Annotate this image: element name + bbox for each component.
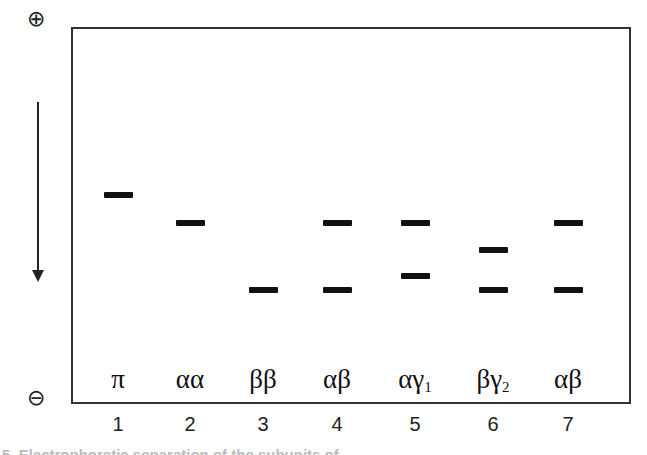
lane-label-subscript: 1 bbox=[424, 379, 432, 395]
lane-label-5: αγ1 bbox=[375, 364, 455, 402]
band-lane-3-1 bbox=[249, 287, 278, 293]
lane-number-3: 3 bbox=[248, 413, 278, 435]
lane-number-6: 6 bbox=[478, 413, 508, 435]
lane-label-7: αβ bbox=[528, 364, 608, 394]
band-lane-7-1 bbox=[554, 220, 583, 226]
lane-label-text: ββ bbox=[249, 364, 276, 394]
lane-number-1: 1 bbox=[103, 413, 133, 435]
figure-caption-cropped: 5. Electrophoretic separation of the sub… bbox=[0, 446, 647, 455]
band-lane-2-1 bbox=[176, 220, 205, 226]
lane-label-1: π bbox=[78, 364, 158, 394]
band-lane-6-2 bbox=[479, 287, 508, 293]
lane-label-text: αγ bbox=[398, 364, 424, 394]
lane-number-7: 7 bbox=[553, 413, 583, 435]
lane-label-text: αβ bbox=[323, 364, 351, 394]
band-lane-7-2 bbox=[554, 287, 583, 293]
lane-label-6: βγ2 bbox=[453, 364, 533, 402]
cathode-minus-icon: ⊖ bbox=[27, 387, 45, 409]
caption-text: 5. Electrophoretic separation of the sub… bbox=[2, 446, 647, 455]
lane-number-4: 4 bbox=[322, 413, 352, 435]
band-lane-6-1 bbox=[479, 247, 508, 253]
lane-label-2: αα bbox=[150, 364, 230, 394]
lane-label-text: βγ bbox=[476, 364, 502, 394]
band-lane-4-1 bbox=[323, 220, 352, 226]
arrow-head bbox=[32, 270, 44, 282]
band-lane-4-2 bbox=[323, 287, 352, 293]
lane-label-4: αβ bbox=[297, 364, 377, 394]
band-lane-5-2 bbox=[401, 273, 430, 279]
gel-frame bbox=[71, 27, 631, 404]
lane-number-2: 2 bbox=[175, 413, 205, 435]
lane-label-text: αα bbox=[176, 364, 204, 394]
anode-plus-icon: ⊕ bbox=[27, 8, 45, 30]
lane-number-5: 5 bbox=[400, 413, 430, 435]
lane-label-text: αβ bbox=[554, 364, 582, 394]
lane-label-subscript: 2 bbox=[502, 379, 510, 395]
band-lane-1-1 bbox=[104, 192, 133, 198]
band-lane-5-1 bbox=[401, 220, 430, 226]
lane-label-3: ββ bbox=[223, 364, 303, 394]
lane-label-text: π bbox=[111, 364, 125, 394]
arrow-shaft bbox=[37, 102, 39, 272]
